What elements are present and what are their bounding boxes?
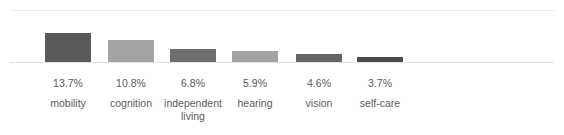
axis-label-group: 3.7%self-care <box>341 63 419 110</box>
category-axis: 13.7%mobility10.8%cognition6.8%independe… <box>0 63 564 135</box>
bar-fill <box>357 57 403 62</box>
bar-value-label: 3.7% <box>341 77 419 89</box>
plot-area <box>0 0 564 63</box>
bar-independent-living[interactable] <box>170 49 216 62</box>
bar-hearing[interactable] <box>232 51 278 62</box>
bar-fill <box>296 54 342 62</box>
bar-mobility[interactable] <box>45 33 91 62</box>
bar-cognition[interactable] <box>108 40 154 62</box>
bar-chart: 13.7%mobility10.8%cognition6.8%independe… <box>0 0 564 135</box>
bar-fill <box>170 49 216 62</box>
bar-vision[interactable] <box>296 54 342 62</box>
bar-fill <box>108 40 154 62</box>
bar-self-care[interactable] <box>357 57 403 62</box>
bar-category-label: self-care <box>341 97 419 110</box>
bar-fill <box>232 51 278 62</box>
bar-fill <box>45 33 91 62</box>
